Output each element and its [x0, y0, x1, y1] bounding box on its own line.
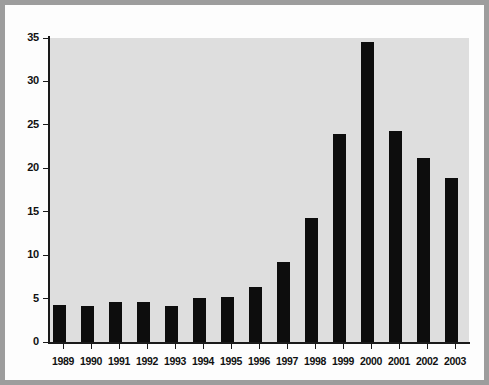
bar	[109, 302, 122, 342]
bar	[277, 262, 290, 342]
y-axis-tick-label: 0	[19, 335, 39, 347]
y-axis-tick-label: 15	[19, 205, 39, 217]
x-axis-tick	[147, 344, 148, 349]
bar	[305, 218, 318, 342]
x-axis-tick	[315, 344, 316, 349]
y-axis-tick-label: 5	[19, 292, 39, 304]
y-axis-tick	[43, 342, 49, 343]
x-axis-tick	[343, 344, 344, 349]
y-axis-tick-label: 30	[19, 74, 39, 86]
bar	[389, 131, 402, 342]
x-axis-tick	[427, 344, 428, 349]
x-axis-tick	[259, 344, 260, 349]
x-axis-tick	[455, 344, 456, 349]
x-axis-tick	[399, 344, 400, 349]
bar	[445, 178, 458, 342]
bar	[361, 42, 374, 342]
x-axis-tick	[91, 344, 92, 349]
x-axis-tick	[287, 344, 288, 349]
y-axis-tick	[43, 124, 49, 125]
bar	[53, 305, 66, 342]
y-axis-tick	[43, 38, 49, 39]
y-axis-tick	[43, 168, 49, 169]
bar	[193, 298, 206, 342]
y-axis-tick	[43, 211, 49, 212]
x-axis-tick	[371, 344, 372, 349]
y-axis-tick	[43, 255, 49, 256]
figure-page: 05101520253035 1989199019911992199319941…	[5, 5, 484, 380]
bar	[137, 302, 150, 342]
x-axis-tick	[231, 344, 232, 349]
y-axis-tick-label: 35	[19, 31, 39, 43]
y-axis-tick-label: 25	[19, 118, 39, 130]
x-axis-tick	[63, 344, 64, 349]
y-axis-tick-label: 20	[19, 161, 39, 173]
x-axis-tick	[203, 344, 204, 349]
bar	[81, 306, 94, 342]
bar	[333, 134, 346, 342]
x-axis-tick-label: 2003	[438, 355, 472, 367]
bar	[221, 297, 234, 342]
y-axis-tick	[43, 298, 49, 299]
x-axis-tick	[175, 344, 176, 349]
y-axis-tick	[43, 81, 49, 82]
y-axis-tick-label: 10	[19, 248, 39, 260]
bar	[249, 287, 262, 342]
bar	[165, 306, 178, 342]
x-axis-tick	[119, 344, 120, 349]
figure-frame: 05101520253035 1989199019911992199319941…	[0, 0, 489, 385]
bar	[417, 158, 430, 342]
